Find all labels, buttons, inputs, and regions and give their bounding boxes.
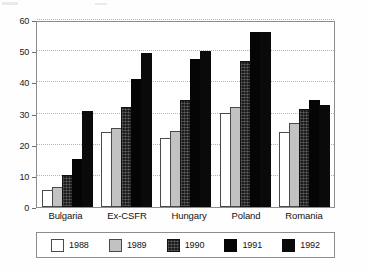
y-axis-tick-label: 40	[19, 79, 29, 88]
x-axis-label: Hungary	[171, 210, 206, 221]
bar-romania-1992	[319, 105, 330, 207]
legend-swatch-1991	[224, 239, 237, 252]
legend-item-1988: 1988	[51, 239, 89, 252]
y-axis-tick-label: 20	[19, 141, 29, 150]
scan-artifact	[95, 3, 107, 5]
bar-bulgaria-1992	[82, 111, 93, 207]
chart-legend: 19881989199019911992	[36, 232, 335, 258]
legend-label-1992: 1992	[300, 240, 320, 250]
legend-item-1991: 1991	[224, 239, 262, 252]
legend-label-1991: 1991	[242, 240, 262, 250]
legend-label-1988: 1988	[69, 240, 89, 250]
legend-label-1990: 1990	[185, 240, 205, 250]
x-axis-label: Poland	[231, 210, 260, 221]
x-axis-label: Ex-CSFR	[107, 210, 146, 221]
bar-hungary-1992	[200, 51, 211, 207]
y-axis: 0102030405060	[0, 21, 36, 208]
x-axis-label: Bulgaria	[48, 210, 82, 221]
legend-swatch-1992	[282, 239, 295, 252]
y-axis-tick-label: 0	[24, 204, 29, 213]
y-axis-tick-label: 30	[19, 110, 29, 119]
y-axis-tick-label: 50	[19, 48, 29, 57]
gridline	[37, 19, 334, 20]
legend-swatch-1988	[51, 239, 64, 252]
x-axis-label: Romania	[285, 210, 322, 221]
bar-group-hungary	[160, 22, 210, 207]
legend-item-1990: 1990	[167, 239, 205, 252]
x-axis-labels: BulgariaEx-CSFRHungaryPolandRomania	[36, 210, 335, 226]
scan-artifact	[2, 2, 18, 5]
legend-swatch-1990	[167, 239, 180, 252]
bars-layer	[37, 22, 334, 207]
bar-chart-figure: 0102030405060 BulgariaEx-CSFRHungaryPola…	[0, 0, 367, 274]
y-axis-tick-mark	[32, 208, 36, 209]
legend-swatch-1989	[109, 239, 122, 252]
bar-ex-csfr-1992	[141, 53, 152, 207]
bar-group-romania	[279, 22, 329, 207]
y-axis-tick-label: 10	[19, 172, 29, 181]
bar-group-ex-csfr	[101, 22, 151, 207]
bar-group-poland	[220, 22, 270, 207]
legend-item-1992: 1992	[282, 239, 320, 252]
plot-area	[36, 21, 335, 208]
y-axis-tick-label: 60	[19, 17, 29, 26]
legend-item-1989: 1989	[109, 239, 147, 252]
bar-poland-1992	[260, 32, 271, 207]
bar-group-bulgaria	[42, 22, 92, 207]
legend-label-1989: 1989	[127, 240, 147, 250]
